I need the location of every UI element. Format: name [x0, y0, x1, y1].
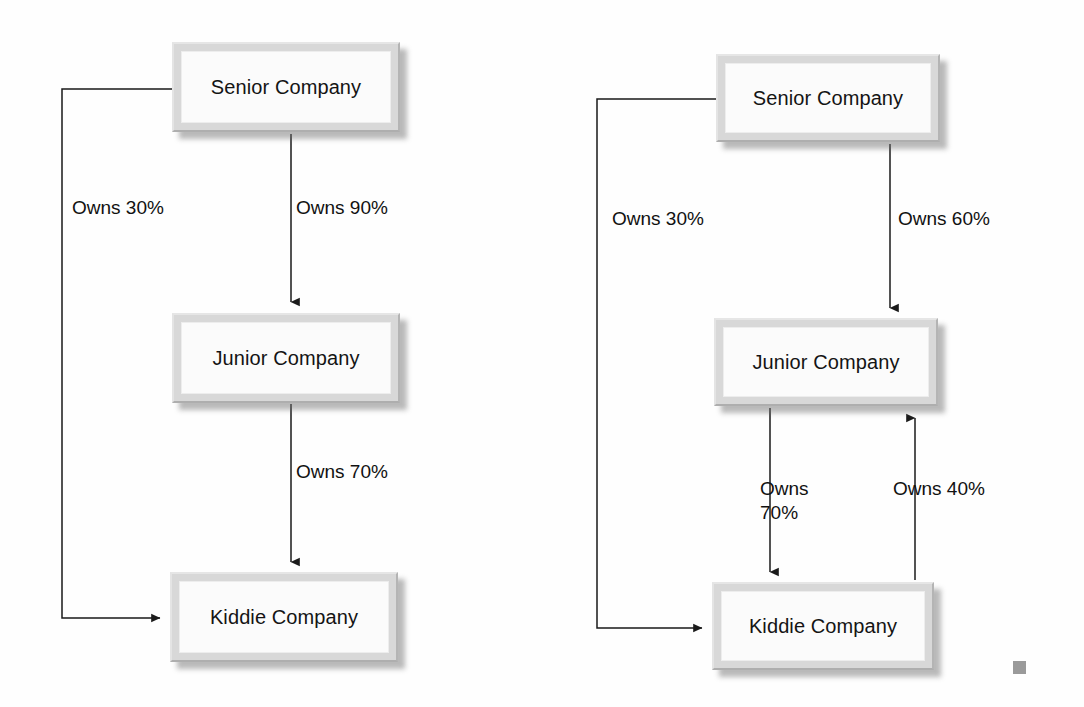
right-node-kiddie-label: Kiddie Company	[749, 615, 897, 638]
diagram-canvas: Senior Company Junior Company Kiddie Com…	[0, 0, 1084, 707]
right-node-senior-company[interactable]: Senior Company	[716, 54, 940, 142]
left-node-kiddie-label: Kiddie Company	[210, 606, 358, 629]
right-edge-label-owns-40: Owns 40%	[893, 477, 985, 501]
left-edge-label-owns-70: Owns 70%	[296, 460, 388, 484]
left-node-senior-label: Senior Company	[211, 76, 361, 99]
edge-left-senior-to-kiddie-30	[62, 89, 176, 618]
right-node-kiddie-company[interactable]: Kiddie Company	[712, 582, 934, 670]
right-node-junior-label: Junior Company	[752, 351, 899, 374]
left-node-junior-label: Junior Company	[212, 347, 359, 370]
corner-square-marker	[1013, 661, 1026, 674]
left-node-senior-face: Senior Company	[181, 51, 391, 123]
right-node-senior-face: Senior Company	[725, 63, 931, 133]
left-node-kiddie-company[interactable]: Kiddie Company	[170, 572, 398, 662]
right-edge-label-owns-30: Owns 30%	[612, 207, 704, 231]
left-edge-label-owns-30: Owns 30%	[72, 196, 164, 220]
right-node-junior-company[interactable]: Junior Company	[714, 318, 938, 406]
right-edge-label-owns-70: Owns 70%	[760, 477, 809, 525]
left-node-kiddie-face: Kiddie Company	[179, 581, 389, 653]
edge-right-senior-to-kiddie-30	[597, 99, 722, 628]
right-edge-label-owns-60: Owns 60%	[898, 207, 990, 231]
left-node-senior-company[interactable]: Senior Company	[172, 42, 400, 132]
right-node-junior-face: Junior Company	[723, 327, 929, 397]
left-node-junior-company[interactable]: Junior Company	[172, 313, 400, 403]
right-node-kiddie-face: Kiddie Company	[721, 591, 925, 661]
left-node-junior-face: Junior Company	[181, 322, 391, 394]
right-node-senior-label: Senior Company	[753, 87, 903, 110]
left-edge-label-owns-90: Owns 90%	[296, 196, 388, 220]
